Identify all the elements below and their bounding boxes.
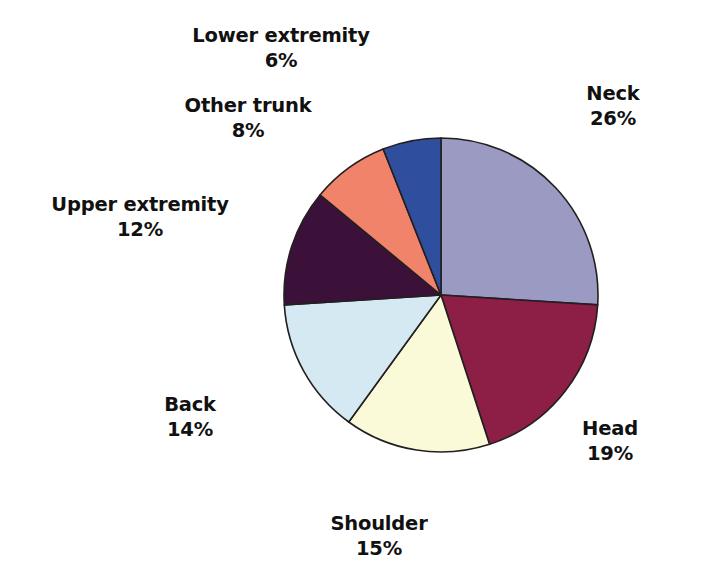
pie-label-lower-extremity-percent: 6% [186,49,376,74]
pie-label-lower-extremity-name: Lower extremity [186,24,376,49]
pie-label-shoulder: Shoulder 15% [309,512,449,562]
pie-label-head-percent: 19% [570,442,650,467]
pie-label-head-name: Head [570,417,650,442]
pie-label-back-name: Back [144,393,236,418]
pie-label-neck-name: Neck [571,82,655,107]
pie-label-other-trunk-percent: 8% [168,119,328,144]
pie-slice-group [284,138,598,452]
pie-label-upper-extremity-percent: 12% [36,218,244,243]
pie-label-head: Head 19% [570,417,650,467]
pie-label-lower-extremity: Lower extremity 6% [186,24,376,74]
pie-label-shoulder-name: Shoulder [309,512,449,537]
pie-label-shoulder-percent: 15% [309,537,449,562]
pie-label-upper-extremity-name: Upper extremity [36,193,244,218]
pie-label-back-percent: 14% [144,418,236,443]
pie-label-other-trunk-name: Other trunk [168,94,328,119]
pie-label-back: Back 14% [144,393,236,443]
pie-slice-neck [441,138,598,305]
pie-label-neck: Neck 26% [571,82,655,132]
pie-chart: Lower extremity 6% Other trunk 8% Upper … [0,0,701,585]
pie-label-neck-percent: 26% [571,107,655,132]
pie-label-other-trunk: Other trunk 8% [168,94,328,144]
pie-label-upper-extremity: Upper extremity 12% [36,193,244,243]
